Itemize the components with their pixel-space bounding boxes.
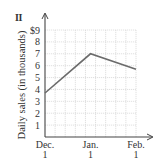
y-tick-label: 5 (35, 72, 40, 83)
y-tick-label: 6 (35, 60, 40, 71)
y-tick-labels: 12345678$9 (30, 25, 40, 131)
grid-lines (45, 30, 136, 137)
x-tick-labels: Dec.1Jan.1Feb.1 (36, 139, 145, 160)
y-tick-label: 8 (35, 36, 40, 47)
plot-area: 12345678$9 Dec.1Jan.1Feb.1 (0, 0, 162, 164)
x-tick-label: 1 (134, 149, 139, 160)
y-tick-label: 4 (35, 84, 40, 95)
y-tick-label: 7 (35, 48, 40, 59)
sales-line (45, 54, 136, 93)
daily-sales-chart: II Daily sales (in thousands) 12345678$9… (0, 0, 162, 164)
y-tick-label: $9 (30, 25, 40, 36)
x-tick-label: 1 (43, 149, 48, 160)
y-tick-label: 2 (35, 108, 40, 119)
y-tick-label: 1 (35, 120, 40, 131)
y-tick-label: 3 (35, 96, 40, 107)
x-tick-label: 1 (88, 149, 93, 160)
